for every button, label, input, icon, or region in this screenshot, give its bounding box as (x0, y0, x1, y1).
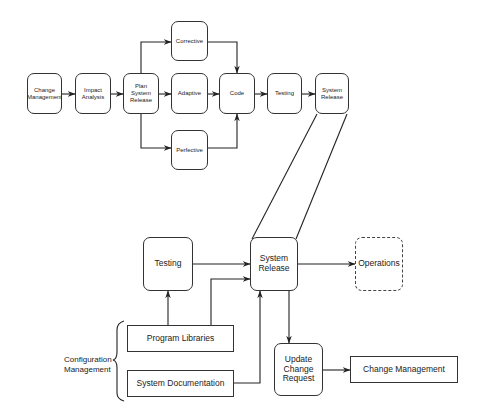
program-libraries-label: Program Libraries (147, 334, 215, 344)
perfective-label: Perfective (176, 147, 203, 154)
perfective-box: Perfective (171, 130, 208, 170)
system-release-box-top: System Release (315, 73, 349, 114)
impact-analysis-label: Impact Analysis (82, 87, 104, 101)
testing-box-top: Testing (267, 73, 302, 114)
change-management-label: Change Management (27, 87, 62, 101)
corrective-box: Corrective (171, 21, 208, 61)
plan-system-release-box: Plan System Release (123, 73, 159, 114)
code-box: Code (219, 73, 255, 114)
system-release-box: System Release (250, 237, 298, 291)
system-release-label-top: System Release (321, 87, 343, 101)
program-libraries-box: Program Libraries (127, 325, 234, 352)
adaptive-box: Adaptive (171, 73, 208, 114)
testing-label-top: Testing (275, 90, 294, 97)
system-documentation-label: System Documentation (137, 379, 225, 389)
change-management-box-bottom: Change Management (350, 356, 458, 383)
configuration-management-label: Configuration Management (64, 355, 112, 374)
testing-box: Testing (143, 237, 193, 291)
corrective-label: Corrective (176, 38, 203, 45)
operations-label: Operations (358, 259, 400, 269)
update-change-request-box: Update Change Request (274, 343, 323, 396)
system-release-label: System Release (258, 254, 289, 274)
adaptive-label: Adaptive (178, 90, 201, 97)
update-change-request-label: Update Change Request (283, 355, 315, 384)
plan-system-release-label: Plan System Release (130, 83, 152, 104)
code-label: Code (230, 90, 244, 97)
testing-label: Testing (155, 259, 182, 269)
impact-analysis-box: Impact Analysis (75, 73, 111, 114)
system-documentation-box: System Documentation (127, 370, 234, 397)
operations-box: Operations (355, 237, 403, 291)
change-management-label-bottom: Change Management (363, 365, 445, 375)
change-management-box: Change Management (27, 73, 62, 114)
